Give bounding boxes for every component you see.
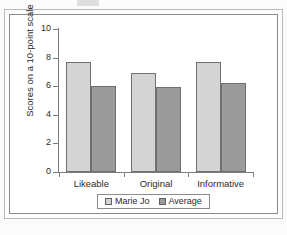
x-axis-tick — [59, 173, 60, 177]
bar-likeable-average — [91, 86, 116, 172]
y-axis-tick-label: 4 — [29, 110, 51, 119]
y-axis-tick-label: 8 — [29, 53, 51, 62]
bar-original-marie-jo — [131, 73, 156, 172]
y-axis-tick-labels: 0246810 — [26, 0, 51, 235]
x-axis-line — [58, 172, 254, 173]
legend-swatch-icon — [105, 198, 112, 205]
y-axis-tick-label: 10 — [29, 24, 51, 33]
x-axis-tick — [188, 173, 189, 177]
x-axis-tick — [124, 173, 125, 177]
legend-label: Average — [169, 197, 202, 206]
figure-container: Scores on a 10-point scale 0246810 Likea… — [0, 0, 287, 235]
chart-legend: Marie JoAverage — [97, 194, 210, 209]
bar-original-average — [156, 87, 181, 172]
x-axis-label-informative: Informative — [181, 178, 261, 189]
plot-area — [59, 29, 253, 172]
legend-label: Marie Jo — [115, 197, 150, 206]
legend-entry-marie-jo: Marie Jo — [105, 197, 150, 206]
y-axis-tick-label: 2 — [29, 138, 51, 147]
y-axis-tick — [53, 172, 58, 173]
y-axis-tick — [53, 29, 58, 30]
y-axis-tick — [53, 143, 58, 144]
bar-likeable-marie-jo — [66, 62, 91, 172]
y-axis-tick — [53, 86, 58, 87]
legend-entry-average: Average — [159, 197, 202, 206]
bar-informative-marie-jo — [196, 62, 221, 172]
legend-swatch-icon — [159, 198, 166, 205]
y-axis-tick-label: 6 — [29, 81, 51, 90]
y-axis-tick — [53, 58, 58, 59]
scan-artifact — [77, 0, 99, 6]
bar-informative-average — [221, 83, 246, 172]
y-axis-tick — [53, 115, 58, 116]
y-axis-tick-label: 0 — [29, 167, 51, 176]
x-axis-tick — [253, 173, 254, 177]
